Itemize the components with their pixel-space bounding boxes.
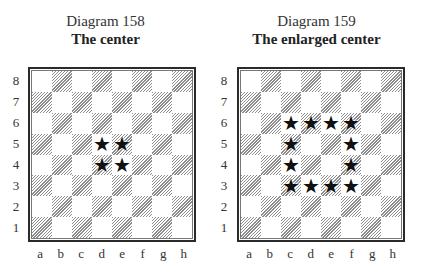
square-e8	[112, 71, 132, 92]
square-e5: ★	[112, 134, 132, 155]
star-icon: ★	[342, 113, 360, 133]
square-f5	[132, 134, 152, 155]
square-a6	[32, 113, 52, 134]
board-grid: ★★★★★★★★★★★★	[240, 70, 402, 239]
square-h7	[172, 92, 192, 113]
file-label: c	[71, 246, 92, 264]
square-h4	[381, 155, 401, 176]
square-b6	[261, 113, 281, 134]
square-c3	[72, 175, 92, 196]
square-b8	[52, 71, 72, 92]
rank-label: 6	[9, 112, 23, 133]
rank-labels: 87654321	[217, 70, 231, 239]
file-label: b	[260, 246, 281, 264]
square-d6	[92, 113, 112, 134]
rank-label: 5	[217, 133, 231, 154]
rank-label: 4	[217, 155, 231, 176]
square-g8	[361, 71, 381, 92]
rank-label: 1	[9, 218, 23, 239]
diagram-number: Diagram 159	[211, 13, 422, 30]
file-label: h	[383, 246, 404, 264]
square-f2	[341, 196, 361, 217]
diagram-title: The enlarged center	[211, 30, 422, 48]
chessboard: ★★★★	[28, 67, 196, 242]
square-f7	[341, 92, 361, 113]
star-icon: ★	[342, 134, 360, 154]
star-icon: ★	[342, 176, 360, 196]
square-c5: ★	[281, 134, 301, 155]
square-f7	[132, 92, 152, 113]
rank-label: 8	[9, 70, 23, 91]
square-e7	[112, 92, 132, 113]
rank-label: 2	[9, 197, 23, 218]
square-e2	[321, 196, 341, 217]
star-icon: ★	[342, 155, 360, 175]
star-icon: ★	[113, 155, 131, 175]
file-labels: abcdefgh	[239, 246, 403, 264]
square-h8	[381, 71, 401, 92]
square-c4	[72, 155, 92, 176]
square-a1	[32, 217, 52, 238]
square-b3	[261, 175, 281, 196]
square-a3	[32, 175, 52, 196]
square-h1	[381, 217, 401, 238]
square-e4: ★	[112, 155, 132, 176]
square-c2	[72, 196, 92, 217]
diagram-159: Diagram 159 The enlarged center 87654321…	[211, 0, 422, 271]
square-b4	[261, 155, 281, 176]
square-f8	[341, 71, 361, 92]
square-f4	[132, 155, 152, 176]
square-d2	[92, 196, 112, 217]
square-g8	[152, 71, 172, 92]
square-d2	[301, 196, 321, 217]
chessboard: ★★★★★★★★★★★★	[237, 67, 405, 242]
square-a3	[241, 175, 261, 196]
star-icon: ★	[282, 134, 300, 154]
square-c1	[72, 217, 92, 238]
square-a2	[32, 196, 52, 217]
square-f5: ★	[341, 134, 361, 155]
file-label: g	[153, 246, 174, 264]
file-label: e	[321, 246, 342, 264]
square-d4	[301, 155, 321, 176]
file-label: d	[92, 246, 113, 264]
square-e1	[112, 217, 132, 238]
square-b2	[52, 196, 72, 217]
square-d7	[301, 92, 321, 113]
square-d1	[301, 217, 321, 238]
square-g7	[152, 92, 172, 113]
rank-labels: 87654321	[9, 70, 23, 239]
square-c4: ★	[281, 155, 301, 176]
file-label: c	[280, 246, 301, 264]
square-g5	[361, 134, 381, 155]
square-e7	[321, 92, 341, 113]
square-a5	[32, 134, 52, 155]
square-b2	[261, 196, 281, 217]
file-labels: abcdefgh	[30, 246, 194, 264]
square-d3: ★	[301, 175, 321, 196]
square-e1	[321, 217, 341, 238]
file-label: e	[112, 246, 133, 264]
square-c8	[281, 71, 301, 92]
square-b1	[52, 217, 72, 238]
square-c8	[72, 71, 92, 92]
star-icon: ★	[282, 176, 300, 196]
square-f3: ★	[341, 175, 361, 196]
square-g2	[152, 196, 172, 217]
square-h7	[381, 92, 401, 113]
rank-label: 8	[217, 70, 231, 91]
square-c7	[281, 92, 301, 113]
square-h5	[172, 134, 192, 155]
square-g7	[361, 92, 381, 113]
square-e3: ★	[321, 175, 341, 196]
file-label: h	[174, 246, 195, 264]
square-h1	[172, 217, 192, 238]
square-d1	[92, 217, 112, 238]
square-e4	[321, 155, 341, 176]
square-b4	[52, 155, 72, 176]
square-f4: ★	[341, 155, 361, 176]
square-a7	[32, 92, 52, 113]
file-label: b	[51, 246, 72, 264]
square-f2	[132, 196, 152, 217]
square-e6: ★	[321, 113, 341, 134]
